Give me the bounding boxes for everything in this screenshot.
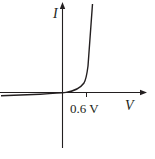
iv-curve — [1, 4, 93, 96]
knee-voltage-label: 0.6 V — [70, 101, 99, 116]
y-axis-arrowhead-icon — [60, 2, 65, 9]
x-axis-arrowhead-icon — [140, 90, 147, 95]
x-axis-label: V — [125, 98, 135, 113]
diode-iv-diagram: I V 0.6 V — [0, 0, 155, 159]
y-axis-label: I — [52, 6, 59, 21]
